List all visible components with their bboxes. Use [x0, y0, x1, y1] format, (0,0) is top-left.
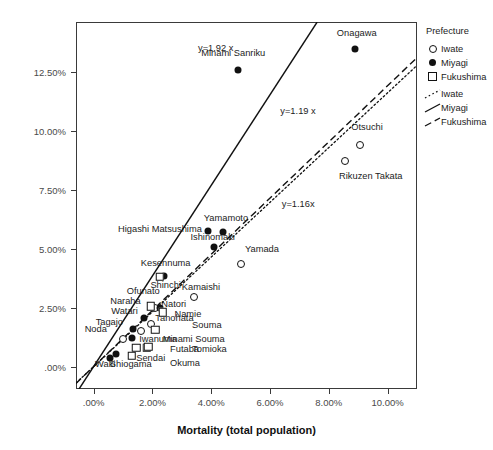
legend-marker-entries: IwateMiyagiFukushima — [424, 42, 493, 83]
x-tick-label: 2.00% — [139, 397, 166, 408]
x-tick-mark — [329, 389, 330, 394]
equation-label-fukushima: y=1.19 x — [280, 106, 315, 116]
legend-item-fukushima-line[interactable]: Fukushima — [424, 115, 493, 128]
data-point-kamaishi[interactable] — [190, 293, 198, 301]
data-point-naraha[interactable] — [147, 302, 156, 311]
x-tick-label: 8.00% — [315, 397, 342, 408]
legend-label: Miyagi — [441, 103, 468, 113]
point-label-yamamoto: Yamamoto — [204, 214, 248, 223]
data-point-shiogama[interactable] — [112, 350, 119, 357]
legend-item-miyagi-marker[interactable]: Miyagi — [424, 56, 493, 69]
data-point-yamada[interactable] — [237, 260, 245, 268]
data-point-minami-souma[interactable] — [128, 335, 135, 342]
point-label-sendai: Sendai — [136, 355, 165, 364]
legend-label: Miyagi — [441, 58, 468, 68]
y-tick-label: 10.00% — [4, 125, 66, 136]
data-point-namie[interactable] — [158, 308, 167, 317]
point-label-tagajo: Tagajo — [96, 318, 123, 327]
y-tick-label: 12.50% — [4, 66, 66, 77]
point-label-yamada: Yamada — [245, 245, 279, 254]
data-point-noda[interactable] — [119, 335, 127, 343]
scatter-plot-figure: PWD mortality .00%2.50%5.00%7.50%10.00%1… — [0, 0, 493, 450]
point-label-waki: Waki — [95, 361, 115, 370]
point-label-tomioka: Tomioka — [192, 345, 227, 354]
legend-item-fukushima-marker[interactable]: Fukushima — [424, 70, 493, 83]
data-point-souma[interactable] — [151, 326, 160, 335]
point-label-shinchi: Shinchi — [150, 282, 181, 291]
point-label-watari: Watari — [111, 308, 138, 317]
point-label-onagawa: Onagawa — [337, 29, 377, 38]
point-label-okuma: Okuma — [170, 360, 200, 369]
legend-item-iwate-line[interactable]: Iwate — [424, 87, 493, 100]
y-tick-label: 7.50% — [4, 184, 66, 195]
x-tick-mark — [388, 389, 389, 394]
legend-item-miyagi-line[interactable]: Miyagi — [424, 101, 493, 114]
dotted-line-icon — [424, 88, 441, 100]
legend-line-entries: IwateMiyagiFukushima — [424, 87, 493, 128]
point-label-souma: Souma — [192, 322, 221, 331]
data-point-otsuchi[interactable] — [356, 141, 364, 149]
y-tick-label: 5.00% — [4, 243, 66, 254]
data-point-ishinomaki[interactable] — [211, 244, 218, 251]
x-tick-label: .00% — [83, 397, 105, 408]
data-point-rikuzen-takata[interactable] — [341, 157, 349, 165]
x-tick-label: 4.00% — [198, 397, 225, 408]
open-square-icon — [424, 72, 441, 81]
open-circle-icon — [424, 45, 441, 53]
point-label-naraha: Naraha — [110, 297, 141, 306]
solid-line-icon — [424, 102, 441, 114]
point-label-kesennuma: Kesennuma — [141, 259, 191, 268]
legend: Prefecture IwateMiyagiFukushima IwateMiy… — [424, 26, 493, 129]
data-point-sendai[interactable] — [128, 352, 137, 361]
point-label-otsuchi: Otsuchi — [351, 124, 383, 133]
x-tick-mark — [270, 389, 271, 394]
x-tick-mark — [152, 389, 153, 394]
filled-circle-icon — [424, 59, 441, 66]
legend-label: Iwate — [441, 89, 463, 99]
data-point-tomioka[interactable] — [144, 342, 153, 351]
data-point-watari[interactable] — [140, 315, 147, 322]
x-tick-mark — [94, 389, 95, 394]
x-axis-title: Mortality (total population) — [76, 424, 417, 436]
point-label-higashi-matsushima: Higashi Matsushima — [118, 225, 202, 234]
x-tick-mark — [211, 389, 212, 394]
x-tick-label: 10.00% — [371, 397, 403, 408]
point-label-ishinomaki: Ishinomaki — [190, 233, 234, 242]
legend-label: Fukushima — [441, 117, 486, 127]
y-tick-label: 2.50% — [4, 302, 66, 313]
point-label-kamaishi: Kamaishi — [182, 283, 220, 292]
legend-title: Prefecture — [426, 26, 493, 36]
dashed-line-icon — [424, 116, 441, 128]
point-label-namie: Namie — [174, 310, 201, 319]
data-points-layer: OtsuchiRikuzen TakataYamadaKamaishiOfuna… — [76, 22, 417, 389]
equation-label-iwate: y=1.16x — [282, 199, 315, 209]
legend-label: Iwate — [441, 44, 463, 54]
legend-item-iwate-marker[interactable]: Iwate — [424, 42, 493, 55]
equation-label-miyagi: y=1.92 x — [198, 43, 233, 53]
data-point-minami-sanriku[interactable] — [234, 67, 241, 74]
data-point-yamamoto[interactable] — [219, 229, 226, 236]
data-point-tagajo[interactable] — [130, 325, 137, 332]
legend-label: Fukushima — [441, 72, 486, 82]
data-point-onagawa[interactable] — [352, 46, 359, 53]
data-point-okuma[interactable] — [132, 343, 141, 352]
point-label-rikuzen-takata: Rikuzen Takata — [339, 172, 402, 181]
x-tick-label: 6.00% — [257, 397, 284, 408]
y-tick-label: .00% — [4, 361, 66, 372]
